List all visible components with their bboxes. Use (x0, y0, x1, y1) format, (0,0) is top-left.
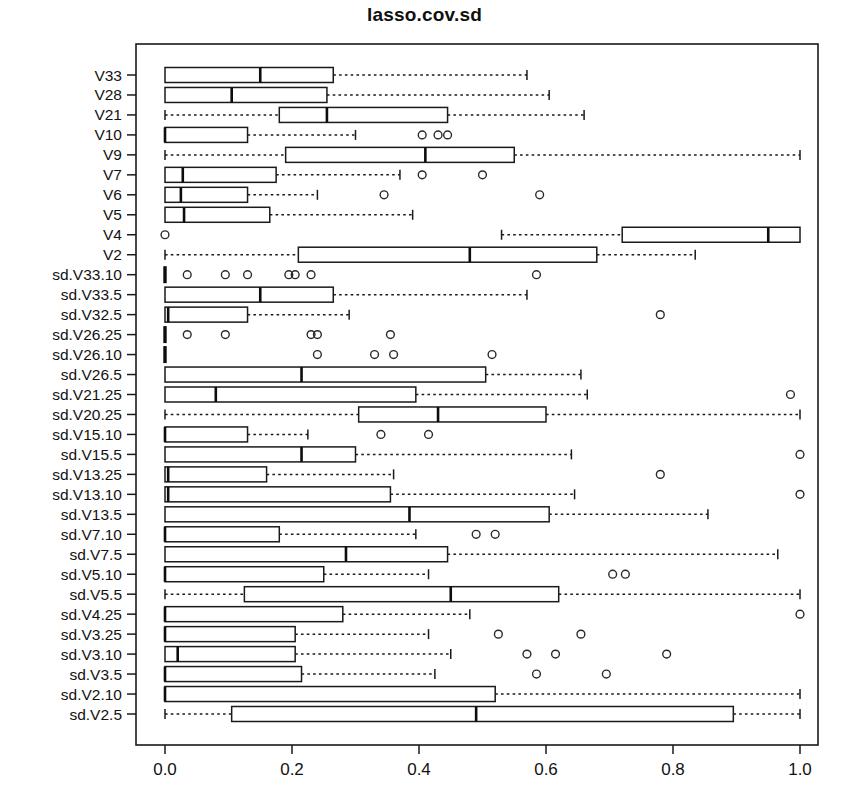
outlier-point (221, 271, 229, 279)
y-axis-label: V33 (94, 67, 122, 84)
y-axis-label: sd.V33.10 (52, 266, 122, 283)
box-iqr (165, 527, 279, 542)
outlier-point (663, 650, 671, 658)
outlier-point (494, 630, 502, 638)
x-axis-label: 0.2 (280, 760, 304, 779)
outlier-point (577, 630, 585, 638)
box-iqr (298, 247, 596, 262)
y-axis-label: V9 (103, 146, 122, 163)
y-axis-label: V21 (94, 106, 122, 123)
outlier-point (656, 311, 664, 319)
box-iqr (165, 287, 333, 302)
x-axis-label: 0.8 (661, 760, 685, 779)
outlier-point (609, 570, 617, 578)
outlier-point (371, 351, 379, 359)
outlier-point (621, 570, 629, 578)
y-axis-label: V10 (94, 126, 122, 143)
outlier-point (390, 351, 398, 359)
x-axis-label: 1.0 (788, 760, 812, 779)
box-iqr (286, 147, 515, 162)
outlier-point (491, 530, 499, 538)
outlier-point (314, 351, 322, 359)
box-iqr (622, 227, 800, 242)
box-iqr (165, 667, 302, 682)
outlier-point (183, 271, 191, 279)
outlier-point (602, 670, 610, 678)
y-axis-label: sd.V5.10 (61, 566, 123, 583)
box-iqr (165, 467, 267, 482)
y-axis-label: sd.V26.10 (52, 346, 122, 363)
box-iqr (165, 447, 356, 462)
box-iqr (165, 367, 486, 382)
outlier-point (796, 490, 804, 498)
outlier-point (221, 331, 229, 339)
y-axis-label: sd.V3.5 (69, 666, 122, 683)
outlier-point (479, 171, 487, 179)
plot-canvas: V33V28V21V10V9V7V6V5V4V2sd.V33.10sd.V33.… (0, 0, 849, 802)
outlier-point (444, 131, 452, 139)
y-axis-label: sd.V4.25 (61, 606, 122, 623)
y-axis-label: sd.V26.5 (61, 366, 122, 383)
outlier-point (533, 670, 541, 678)
outlier-point (523, 650, 531, 658)
box-iqr (165, 647, 295, 662)
x-axis-label: 0.4 (407, 760, 431, 779)
y-axis-label: sd.V2.10 (61, 686, 123, 703)
outlier-point (244, 271, 252, 279)
box-iqr (279, 107, 447, 122)
y-axis-label: V4 (103, 226, 122, 243)
box-iqr (165, 547, 448, 562)
y-axis-label: sd.V2.5 (69, 706, 122, 723)
y-axis-label: sd.V15.5 (61, 446, 122, 463)
outlier-point (434, 131, 442, 139)
outlier-point (796, 451, 804, 459)
y-axis-label: V5 (103, 206, 122, 223)
outlier-point (425, 431, 433, 439)
box-iqr (165, 387, 416, 402)
y-axis-label: sd.V7.10 (61, 526, 123, 543)
outlier-point (418, 171, 426, 179)
y-axis-label: V2 (103, 246, 122, 263)
box-iqr (165, 627, 295, 642)
outlier-point (787, 391, 795, 399)
box-iqr (165, 307, 248, 322)
outlier-point (377, 431, 385, 439)
x-axis-label: 0.0 (153, 760, 177, 779)
box-iqr (165, 687, 495, 702)
outlier-point (161, 231, 169, 239)
x-axis-label: 0.6 (534, 760, 558, 779)
outlier-point (488, 351, 496, 359)
box-iqr (165, 607, 343, 622)
outlier-point (307, 271, 315, 279)
box-iqr (165, 127, 248, 142)
boxplot-figure: lasso.cov.sd V33V28V21V10V9V7V6V5V4V2sd.… (0, 0, 849, 802)
box-iqr (232, 707, 734, 722)
outlier-point (796, 610, 804, 618)
y-axis-label: sd.V3.25 (61, 626, 122, 643)
box-iqr (165, 207, 270, 222)
y-axis-label: sd.V33.5 (61, 286, 122, 303)
y-axis-label: sd.V26.25 (52, 326, 122, 343)
y-axis-label: sd.V15.10 (52, 426, 122, 443)
outlier-point (552, 650, 560, 658)
outlier-point (656, 470, 664, 478)
box-iqr (165, 68, 333, 83)
box-iqr (165, 487, 390, 502)
box-iqr (165, 187, 248, 202)
box-iqr (359, 407, 546, 422)
outlier-point (418, 131, 426, 139)
y-axis-label: V7 (103, 166, 122, 183)
outlier-point (472, 530, 480, 538)
y-axis-label: sd.V13.10 (52, 486, 122, 503)
y-axis-label: sd.V13.25 (52, 466, 122, 483)
y-axis-label: sd.V13.5 (61, 506, 122, 523)
outlier-point (380, 191, 388, 199)
y-axis-label: sd.V21.25 (52, 386, 122, 403)
outlier-point (536, 191, 544, 199)
y-axis-label: V6 (103, 186, 122, 203)
box-iqr (165, 567, 324, 582)
y-axis-label: sd.V7.5 (69, 546, 122, 563)
y-axis-label: sd.V5.5 (69, 586, 122, 603)
box-iqr (165, 87, 327, 102)
y-axis-label: V28 (94, 86, 122, 103)
